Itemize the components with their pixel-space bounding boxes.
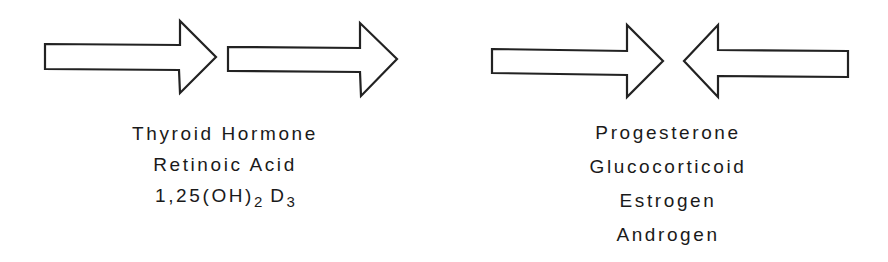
vitamin-d: D xyxy=(262,185,286,206)
label-thyroid-hormone: Thyroid Hormone xyxy=(95,118,355,149)
label-estrogen: Estrogen xyxy=(540,184,796,218)
right-ligand-labels: Progesterone Glucocorticoid Estrogen And… xyxy=(540,116,796,252)
label-progesterone: Progesterone xyxy=(540,116,796,150)
arrow-right-icon xyxy=(228,23,397,96)
label-androgen: Androgen xyxy=(540,218,796,252)
label-vitamin-d3: 1,25(OH)2 D3 xyxy=(95,180,355,217)
label-glucocorticoid: Glucocorticoid xyxy=(540,150,796,184)
arrow-right-icon xyxy=(492,25,663,97)
label-retinoic-acid: Retinoic Acid xyxy=(95,149,355,180)
subscript-3: 3 xyxy=(287,193,295,210)
arrow-left-icon xyxy=(684,25,848,97)
vitamin-prefix: 1,25(OH) xyxy=(155,185,254,206)
left-ligand-labels: Thyroid Hormone Retinoic Acid 1,25(OH)2 … xyxy=(95,118,355,217)
arrow-right-icon xyxy=(45,21,216,93)
